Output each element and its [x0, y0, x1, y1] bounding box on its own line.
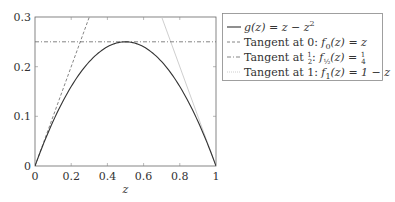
- g-curve: [35, 42, 216, 166]
- x-ticks: [71, 17, 180, 166]
- x-axis-label: z: [122, 183, 129, 196]
- y-tick-label: 0.3: [14, 11, 32, 24]
- legend-th-mid: :: [312, 51, 319, 64]
- legend-t1-prefix: Tangent at 1:: [244, 66, 321, 79]
- y-tick-label: 0.2: [14, 61, 32, 74]
- legend-t0-suffix: (z) = z: [331, 36, 368, 49]
- y-tick-label: 0.1: [14, 110, 32, 123]
- x-tick-label: 0.8: [171, 170, 189, 183]
- y-tick-label: 0: [24, 160, 31, 173]
- x-tick-label: 0.6: [135, 170, 153, 183]
- legend-th-frac2-bot: 4: [361, 58, 366, 66]
- legend: g(z) = z − z2 Tangent at 0: f0(z) = z Ta…: [223, 14, 391, 82]
- chart: 0 0.2 0.4 0.6 0.8 1 0 0.1 0.2 0.3 z g(z)…: [0, 0, 395, 202]
- legend-entry-tangent-0: Tangent at 0: f0(z) = z: [244, 36, 367, 51]
- legend-th-prefix: Tangent at: [244, 51, 307, 64]
- x-tick-label: 1: [213, 170, 220, 183]
- x-tick-label: 0.4: [99, 170, 117, 183]
- legend-entry-tangent-half: Tangent at 12: f½(z) = 14: [244, 51, 366, 66]
- x-tick-label: 0: [32, 170, 39, 183]
- legend-g-sup: 2: [309, 19, 314, 28]
- legend-g-func: g(z) = z − z: [244, 21, 310, 34]
- legend-t0-prefix: Tangent at 0:: [244, 36, 321, 49]
- legend-entry-tangent-1: Tangent at 1: f1(z) = 1 − z: [244, 66, 390, 81]
- legend-th-suffix: (z) =: [330, 51, 361, 64]
- x-tick-label: 0.2: [62, 170, 80, 183]
- legend-t1-suffix: (z) = 1 − z: [331, 66, 391, 79]
- legend-entry-g: g(z) = z − z2: [244, 19, 315, 34]
